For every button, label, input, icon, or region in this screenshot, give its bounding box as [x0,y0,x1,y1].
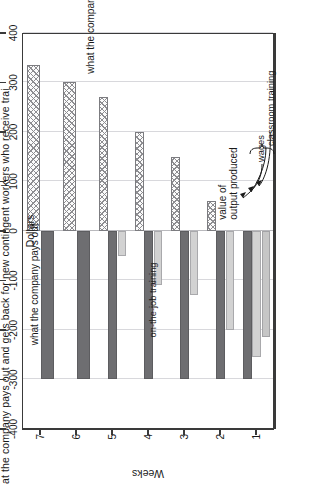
annotation-value-of-output-line2: output produced [229,147,240,219]
annotation-pays-out: what the company pays out [30,224,41,346]
annotation-gets-back: what the company gets back [86,0,97,74]
annotation-wages: wages [256,135,266,162]
annotation-classroom-training: classroom training [266,71,276,146]
annotation-leaders [0,0,329,484]
annotation-on-the-job-training: on-the-job training [148,262,158,337]
chart-figure: at the company pays out and gets back fo… [0,0,329,484]
figure-canvas: at the company pays out and gets back fo… [0,0,329,484]
